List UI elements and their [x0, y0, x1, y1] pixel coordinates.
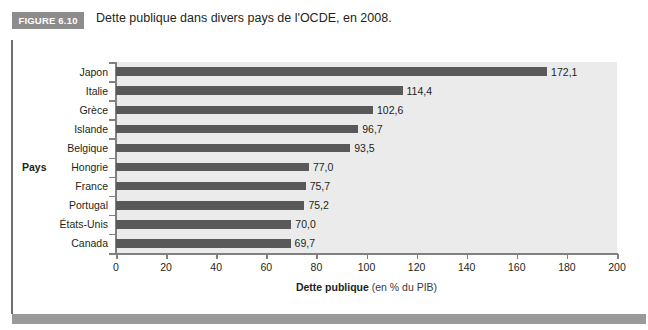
x-axis-tick [316, 254, 318, 259]
x-axis-tick [367, 254, 369, 259]
bar [116, 144, 350, 153]
bar-chart: 172,1114,4102,696,793,577,075,775,270,06… [0, 50, 648, 305]
x-axis-tick [467, 254, 469, 259]
y-axis-tick [109, 62, 115, 64]
x-axis-tick [517, 254, 519, 259]
category-label: Hongrie [0, 162, 108, 173]
x-axis-tick [417, 254, 419, 259]
bar-value-label: 69,7 [295, 238, 315, 249]
x-axis-tick [116, 254, 118, 259]
bar [116, 182, 306, 191]
bar-value-label: 75,7 [310, 181, 330, 192]
x-axis-tick [617, 254, 619, 259]
x-axis-tick-label: 60 [260, 262, 272, 273]
category-label: Portugal [0, 200, 108, 211]
bar [116, 106, 373, 115]
figure-number-badge: FIGURE 6.10 [12, 12, 84, 29]
bar [116, 220, 291, 229]
y-axis-tick [109, 215, 115, 217]
x-axis-tick-label: 40 [210, 262, 222, 273]
bar-value-label: 93,5 [354, 143, 374, 154]
x-axis-tick [216, 254, 218, 259]
x-axis-title-main: Dette publique [296, 281, 369, 293]
bar-value-label: 114,4 [407, 86, 433, 97]
x-axis-tick-label: 160 [508, 262, 526, 273]
y-axis-title: Pays [22, 162, 47, 173]
bar [116, 239, 291, 248]
category-label: États-Unis [0, 219, 108, 230]
x-axis-tick-label: 120 [408, 262, 426, 273]
bar [116, 163, 309, 172]
x-axis-tick-label: 140 [458, 262, 476, 273]
y-axis-tick [109, 100, 115, 102]
y-axis-tick [109, 138, 115, 140]
x-axis-title-note: (en % du PIB) [372, 281, 437, 293]
figure-page: FIGURE 6.10 Dette publique dans divers p… [0, 0, 648, 330]
y-axis-tick [109, 234, 115, 236]
x-axis-tick [567, 254, 569, 259]
y-axis-tick [109, 158, 115, 160]
category-label: Canada [0, 238, 108, 249]
y-axis-tick [109, 177, 115, 179]
y-axis-tick [109, 119, 115, 121]
category-label: Grèce [0, 105, 108, 116]
category-label: France [0, 181, 108, 192]
bar-value-label: 96,7 [362, 124, 382, 135]
y-axis-tick [109, 81, 115, 83]
category-label: Japon [0, 67, 108, 78]
y-axis-tick [109, 196, 115, 198]
category-label: Belgique [0, 143, 108, 154]
bar-value-label: 77,0 [313, 162, 333, 173]
x-axis-title: Dette publique (en % du PIB) [116, 281, 617, 293]
x-axis-tick-label: 0 [113, 262, 119, 273]
x-axis-tick-label: 180 [558, 262, 576, 273]
x-axis-tick [166, 254, 168, 259]
bar-value-label: 75,2 [308, 200, 328, 211]
bar-value-label: 172,1 [551, 67, 577, 78]
category-label: Islande [0, 124, 108, 135]
bar-value-label: 70,0 [295, 219, 315, 230]
x-axis-tick-label: 200 [608, 262, 626, 273]
bottom-band-divider [12, 314, 646, 324]
bar [116, 201, 304, 210]
x-axis-tick [266, 254, 268, 259]
x-axis-tick-label: 80 [311, 262, 323, 273]
bar [116, 67, 547, 76]
bar [116, 125, 358, 134]
x-axis-tick-label: 100 [358, 262, 376, 273]
bar [116, 86, 403, 95]
x-axis-tick-label: 20 [160, 262, 172, 273]
category-label: Italie [0, 86, 108, 97]
figure-caption: Dette publique dans divers pays de l'OCD… [96, 11, 392, 25]
bar-value-label: 102,6 [377, 105, 403, 116]
y-axis-tick [109, 253, 115, 255]
